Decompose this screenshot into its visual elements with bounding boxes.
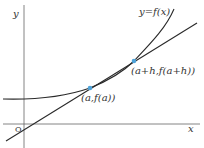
secant-line bbox=[6, 23, 197, 141]
secant-line-diagram: y=f(x) y x O (a,f(a)) (a+h,f(a+h)) bbox=[0, 0, 204, 148]
function-label: y=f(x) bbox=[138, 6, 170, 17]
function-curve bbox=[3, 9, 174, 99]
x-axis-label: x bbox=[188, 123, 194, 134]
y-axis-label: y bbox=[12, 8, 19, 19]
point-a bbox=[88, 86, 93, 91]
origin-label: O bbox=[15, 125, 22, 134]
point-a-label: (a,f(a)) bbox=[81, 92, 116, 103]
point-a-plus-h-label: (a+h,f(a+h)) bbox=[131, 65, 195, 76]
point-a-plus-h bbox=[132, 59, 137, 64]
